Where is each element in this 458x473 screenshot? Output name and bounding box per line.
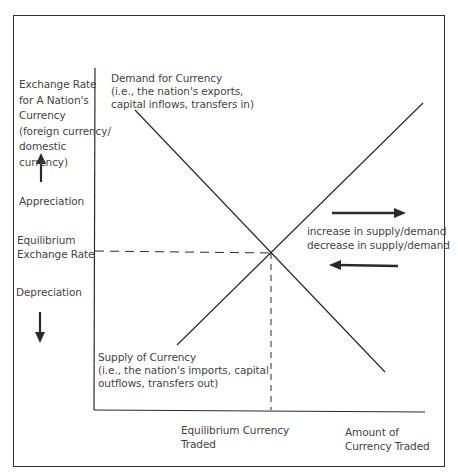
x-axis	[94, 410, 425, 412]
demand-label-line: Demand for Currency	[111, 72, 254, 85]
appreciation-label: Appreciation	[19, 194, 84, 208]
supply-label-line: Supply of Currency	[98, 351, 269, 364]
equilibrium-quantity-line: Equilibrium Currency	[181, 424, 289, 438]
depreciation-label: Depreciation	[16, 285, 82, 299]
equilibrium-rate-dashed-line	[95, 251, 272, 253]
y-axis-title-line: Currency	[19, 108, 111, 124]
decrease-label: decrease in supply/demand	[307, 239, 450, 253]
x-axis-title-line: Currency Traded	[345, 440, 430, 454]
y-axis-title-line: Exchange Rate	[19, 77, 111, 93]
supply-curve	[177, 103, 423, 345]
equilibrium-currency-traded-label: Equilibrium Currency Traded	[181, 424, 289, 451]
equilibrium-exchange-rate-label: Equilibrium Exchange Rate	[17, 234, 94, 261]
equilibrium-quantity-line: Traded	[181, 438, 289, 452]
supply-label-line: outflows, transfers out)	[98, 377, 269, 390]
demand-label-line: capital inflows, transfers in)	[111, 98, 254, 111]
x-axis-title: Amount of Currency Traded	[345, 426, 430, 453]
y-axis-title-line: (foreign currency/	[19, 124, 111, 140]
shift-legend: increase in supply/demand decrease in su…	[307, 225, 450, 252]
arrow-down-icon	[35, 312, 45, 343]
y-axis-title-line: domestic	[19, 139, 111, 155]
equilibrium-rate-line: Exchange Rate	[17, 248, 94, 262]
equilibrium-rate-line: Equilibrium	[17, 234, 94, 248]
y-axis-title: Exchange Rate for A Nation's Currency (f…	[19, 77, 111, 170]
arrow-left-icon	[329, 260, 398, 270]
demand-label-line: (i.e., the nation's exports,	[111, 85, 254, 98]
y-axis-title-line: for A Nation's	[19, 93, 111, 109]
supply-label-line: (i.e., the nation's imports, capital	[98, 364, 269, 377]
supply-curve-label: Supply of Currency (i.e., the nation's i…	[98, 351, 269, 390]
y-axis-title-line: currency)	[19, 155, 111, 171]
arrow-right-icon	[332, 208, 406, 218]
demand-curve-label: Demand for Currency (i.e., the nation's …	[111, 72, 254, 111]
x-axis-title-line: Amount of	[345, 426, 430, 440]
increase-label: increase in supply/demand	[307, 225, 450, 239]
